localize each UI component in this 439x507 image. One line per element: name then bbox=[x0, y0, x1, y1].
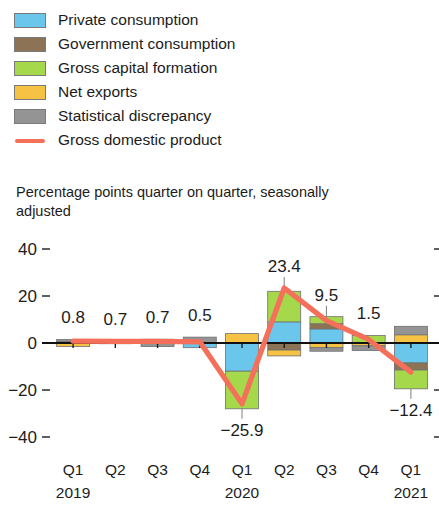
y-axis-tick-label: 20 bbox=[18, 287, 37, 306]
y-axis-tick-label: 40 bbox=[18, 240, 37, 259]
bar-segment bbox=[310, 348, 343, 352]
y-axis-tick-label: −20 bbox=[8, 381, 37, 400]
chart-subtitle: Percentage points quarter on quarter, se… bbox=[16, 183, 346, 221]
bar-value-label: 0.7 bbox=[146, 308, 170, 327]
bar-value-label: 1.5 bbox=[357, 304, 381, 323]
y-axis-tick-label: 0 bbox=[28, 334, 37, 353]
legend-item-label: Net exports bbox=[58, 84, 137, 100]
bar-segment bbox=[394, 335, 427, 343]
legend-item-label: Government consumption bbox=[58, 36, 235, 52]
y-axis-labels-group: 40200−20−40 bbox=[8, 240, 37, 447]
bar-value-label: −25.9 bbox=[220, 421, 263, 440]
bar-value-label: −12.4 bbox=[389, 401, 432, 420]
legend-item: Gross capital formation bbox=[14, 56, 434, 80]
x-axis-quarter-label: Q1 bbox=[232, 461, 253, 478]
bar-segment bbox=[394, 326, 427, 334]
bar-value-label: 9.5 bbox=[315, 286, 339, 305]
bar-segment bbox=[226, 334, 259, 343]
legend-line-gross-domestic-product bbox=[14, 133, 46, 148]
x-axis-quarter-label: Q2 bbox=[105, 461, 126, 478]
bar-segment bbox=[310, 329, 343, 343]
x-axis-year-label: 2019 bbox=[56, 484, 90, 501]
legend-item: Gross domestic product bbox=[14, 128, 434, 152]
bar-value-label: 0.8 bbox=[61, 308, 85, 327]
legend-item: Government consumption bbox=[14, 32, 434, 56]
chart-legend: Private consumptionGovernment consumptio… bbox=[14, 8, 434, 152]
x-axis-year-label: 2021 bbox=[394, 484, 428, 501]
x-axis-year-label: 2020 bbox=[225, 484, 260, 501]
legend-item: Private consumption bbox=[14, 8, 434, 32]
bar-value-label: 0.7 bbox=[104, 310, 128, 329]
legend-swatch-statistical-discrepancy bbox=[14, 109, 46, 124]
stacked-bar-chart: 40200−20−40 0.80.70.70.5−25.923.49.51.5−… bbox=[0, 232, 439, 507]
x-axis-quarter-label: Q4 bbox=[189, 461, 210, 478]
legend-swatch-net-exports bbox=[14, 85, 46, 100]
x-axis-labels-group: Q1Q2Q3Q4Q1Q2Q3Q4Q1201920202021 bbox=[56, 461, 428, 501]
y-axis-tick-label: −40 bbox=[8, 428, 37, 447]
legend-item: Statistical discrepancy bbox=[14, 104, 434, 128]
x-axis-quarter-label: Q2 bbox=[274, 461, 295, 478]
chart-page: Private consumptionGovernment consumptio… bbox=[0, 0, 439, 507]
legend-item-label: Gross domestic product bbox=[58, 132, 222, 148]
x-axis-quarter-label: Q3 bbox=[147, 461, 168, 478]
legend-item-label: Private consumption bbox=[58, 12, 198, 28]
legend-item-label: Statistical discrepancy bbox=[58, 108, 211, 124]
legend-item: Net exports bbox=[14, 80, 434, 104]
legend-swatch-government-consumption bbox=[14, 37, 46, 52]
bar-segment bbox=[268, 350, 301, 356]
legend-swatch-private-consumption bbox=[14, 13, 46, 28]
bar-value-label: 23.4 bbox=[268, 257, 301, 276]
chart-plot-area: 40200−20−40 0.80.70.70.5−25.923.49.51.5−… bbox=[0, 232, 439, 507]
legend-item-label: Gross capital formation bbox=[58, 60, 217, 76]
x-axis-quarter-label: Q1 bbox=[63, 461, 84, 478]
legend-swatch-gross-capital-formation bbox=[14, 61, 46, 76]
x-axis-quarter-label: Q3 bbox=[316, 461, 337, 478]
bar-value-label: 0.5 bbox=[188, 306, 212, 325]
x-axis-quarter-label: Q1 bbox=[401, 461, 422, 478]
x-axis-quarter-label: Q4 bbox=[358, 461, 379, 478]
